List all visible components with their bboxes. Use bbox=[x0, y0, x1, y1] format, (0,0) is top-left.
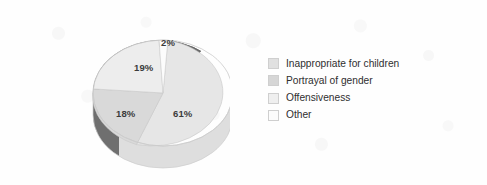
legend-swatch-icon bbox=[268, 110, 279, 121]
legend-label: Other bbox=[286, 110, 311, 120]
legend-item-inappropriate-for-children[interactable]: Inappropriate for children bbox=[268, 55, 468, 72]
legend-item-portrayal-of-gender[interactable]: Portrayal of gender bbox=[268, 72, 468, 89]
legend-item-offensiveness[interactable]: Offensiveness bbox=[268, 90, 468, 107]
chart-legend: Inappropriate for children Portrayal of … bbox=[268, 55, 468, 124]
pie-chart-graphic bbox=[90, 8, 230, 180]
slice-label-other: 2% bbox=[161, 37, 175, 48]
slice-label-inappropriate-for-children: 61% bbox=[173, 108, 192, 119]
legend-swatch-icon bbox=[268, 75, 279, 86]
legend-label: Offensiveness bbox=[286, 93, 350, 103]
legend-item-other[interactable]: Other bbox=[268, 107, 468, 124]
legend-swatch-icon bbox=[268, 58, 279, 69]
pie-chart-figure: 2% 19% 18% 61% Inappropriate for childre… bbox=[0, 0, 487, 185]
legend-label: Inappropriate for children bbox=[286, 59, 399, 69]
legend-swatch-icon bbox=[268, 93, 279, 104]
slice-label-portrayal-of-gender: 18% bbox=[116, 108, 135, 119]
slice-label-offensiveness: 19% bbox=[134, 62, 153, 73]
legend-label: Portrayal of gender bbox=[286, 76, 373, 86]
